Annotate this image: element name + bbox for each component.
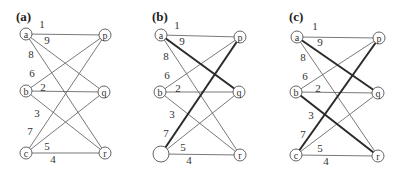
edge-weight-label: 9: [44, 34, 50, 46]
edge-b-r: [296, 92, 378, 156]
edge-weight-label: 5: [44, 140, 50, 152]
node-b: b: [154, 86, 166, 98]
panel-b: (b)198623754abpqr: [152, 9, 246, 166]
edge-b-p: [26, 35, 105, 91]
edge-c-p: [296, 38, 379, 155]
edge-b-q: [296, 92, 378, 93]
node-label: c: [294, 150, 299, 161]
edge-weight-label: 7: [163, 127, 169, 139]
node-label: p: [238, 32, 243, 43]
bipartite-graph-figure: (a)198623754abcpqr(b)198623754abpqr(c)19…: [0, 0, 404, 173]
node-a: a: [155, 29, 167, 41]
edge-weight-label: 3: [34, 107, 40, 119]
node-p: p: [373, 32, 385, 44]
panel-label: (c): [289, 9, 303, 24]
edge-weight-label: 7: [27, 125, 33, 137]
node-label: a: [24, 29, 29, 40]
node-c: c: [290, 149, 302, 161]
node-label: a: [295, 32, 300, 43]
edge-weight-label: 2: [315, 82, 321, 94]
edge-weight-label: 4: [186, 154, 192, 166]
edge-weight-label: 8: [300, 51, 306, 63]
edge-weight-label: 2: [40, 81, 46, 93]
node-c: c: [20, 147, 32, 159]
edge-weight-label: 3: [169, 108, 175, 120]
node-label: p: [377, 33, 382, 44]
node-c: [153, 146, 169, 162]
edge-weight-label: 4: [50, 153, 56, 165]
node-label: b: [24, 86, 29, 97]
edge-c-r: [296, 155, 378, 156]
edge-b-q: [26, 91, 104, 92]
panel-label: (a): [16, 9, 31, 24]
edge-weight-label: 1: [174, 19, 180, 31]
node-label: a: [159, 30, 164, 41]
edge-c-q: [26, 92, 104, 153]
edge-weight-label: 6: [302, 70, 308, 82]
edge-weight-label: 1: [39, 18, 45, 30]
node-a: a: [291, 31, 303, 43]
edge-weight-label: 1: [312, 20, 318, 32]
node-p: p: [99, 29, 111, 41]
node-label: c: [24, 148, 29, 159]
node-label: q: [237, 87, 242, 98]
panel-label: (b): [152, 9, 168, 24]
node-label: q: [102, 87, 107, 98]
edge-weight-label: 6: [164, 69, 170, 81]
edge-a-p: [26, 34, 105, 35]
node-q: q: [233, 86, 245, 98]
node-r: r: [99, 147, 111, 159]
panel-a: (a)198623754abcpqr: [16, 9, 111, 165]
edge-weight-label: 5: [317, 142, 323, 154]
edge-weight-label: 9: [317, 36, 323, 48]
edge-weight-label: 2: [175, 82, 181, 94]
node-r: r: [234, 149, 246, 161]
edge-weight-label: 8: [28, 48, 34, 60]
node-label: b: [158, 87, 163, 98]
edge-weight-label: 8: [163, 50, 169, 62]
edge-weight-label: 4: [323, 155, 329, 167]
node-r: r: [372, 150, 384, 162]
edge-a-p: [297, 37, 379, 38]
node-a: a: [20, 28, 32, 40]
node-label: b: [294, 87, 299, 98]
node-q: q: [372, 87, 384, 99]
edge-weight-label: 9: [179, 35, 185, 47]
edge-weight-label: 5: [180, 141, 186, 153]
node-label: q: [376, 88, 381, 99]
edge-weight-label: 7: [300, 128, 306, 140]
node-b: b: [290, 86, 302, 98]
edge-weight-label: 3: [308, 109, 314, 121]
edge-weight-label: 6: [29, 67, 35, 79]
node-b: b: [20, 85, 32, 97]
node-circle: [153, 146, 169, 162]
edge-a-p: [161, 35, 240, 37]
edge-a-q: [297, 37, 378, 93]
panel-c: (c)198623754abcpqr: [289, 9, 385, 167]
node-p: p: [234, 31, 246, 43]
edge-c-r: [161, 154, 240, 155]
node-q: q: [98, 86, 110, 98]
node-label: p: [103, 30, 108, 41]
